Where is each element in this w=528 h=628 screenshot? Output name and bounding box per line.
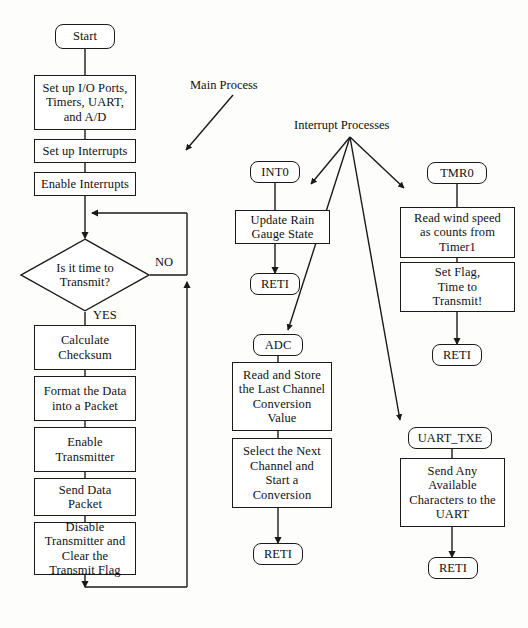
node-uart-txe-entry[interactable]: UART_TXE bbox=[408, 427, 492, 449]
node-enable-transmitter[interactable]: Enable Transmitter bbox=[34, 427, 136, 472]
flowchart-canvas: Main Process Interrupt Processes Start S… bbox=[0, 0, 528, 628]
node-start[interactable]: Start bbox=[55, 24, 115, 49]
node-int0-entry[interactable]: INT0 bbox=[250, 161, 300, 183]
node-setup-interrupts[interactable]: Set up Interrupts bbox=[34, 139, 136, 163]
node-decision-transmit[interactable]: Is it time to Transmit? bbox=[20, 238, 150, 312]
node-uart-txe-reti[interactable]: RETI bbox=[428, 557, 478, 579]
node-adc-entry[interactable]: ADC bbox=[253, 334, 303, 356]
edge-label-no: NO bbox=[155, 255, 173, 270]
edge-label-yes: YES bbox=[93, 308, 117, 323]
node-read-wind-speed[interactable]: Read wind speed as counts from Timer1 bbox=[400, 207, 515, 258]
node-int0-reti[interactable]: RETI bbox=[250, 273, 300, 295]
node-send-characters[interactable]: Send Any Available Characters to the UAR… bbox=[400, 458, 505, 527]
node-setup-peripherals[interactable]: Set up I/O Ports, Timers, UART, and A/D bbox=[34, 75, 136, 130]
node-tmr0-reti[interactable]: RETI bbox=[432, 344, 482, 366]
decision-label: Is it time to Transmit? bbox=[20, 238, 150, 312]
node-calculate-checksum[interactable]: Calculate Checksum bbox=[34, 325, 136, 370]
node-read-store-conversion[interactable]: Read and Store the Last Channel Conversi… bbox=[232, 362, 332, 431]
node-select-next-channel[interactable]: Select the Next Channel and Start a Conv… bbox=[232, 438, 332, 508]
node-send-data-packet[interactable]: Send Data Packet bbox=[34, 478, 136, 516]
node-tmr0-entry[interactable]: TMR0 bbox=[427, 162, 487, 184]
node-adc-reti[interactable]: RETI bbox=[253, 543, 303, 565]
node-disable-transmitter[interactable]: Disable Transmitter and Clear the Transm… bbox=[34, 522, 136, 575]
annotation-main-process: Main Process bbox=[190, 78, 258, 93]
node-update-rain-gauge[interactable]: Update Rain Gauge State bbox=[235, 210, 330, 244]
node-set-transmit-flag[interactable]: Set Flag, Time to Transmit! bbox=[400, 262, 515, 312]
node-enable-interrupts[interactable]: Enable Interrupts bbox=[34, 172, 136, 196]
annotation-interrupt-processes: Interrupt Processes bbox=[294, 118, 389, 133]
node-format-data[interactable]: Format the Data into a Packet bbox=[34, 376, 136, 421]
